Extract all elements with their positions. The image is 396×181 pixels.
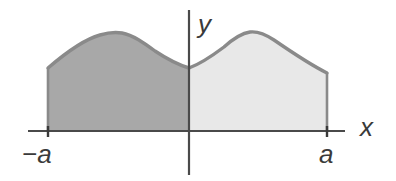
y-axis-label: y [196, 9, 213, 39]
x-axis-label: x [358, 112, 374, 142]
right-shaded-region [189, 32, 327, 131]
even-function-symmetry-figure: y x −a a [0, 0, 396, 181]
figure-canvas: y x −a a [0, 0, 396, 181]
tick-label-right-bound: a [319, 139, 333, 169]
tick-label-left-bound: −a [22, 139, 52, 169]
left-shaded-region [48, 32, 189, 131]
